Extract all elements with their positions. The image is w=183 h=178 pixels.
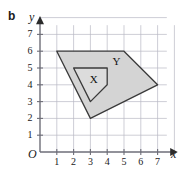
y-tick-label: 4 <box>24 80 36 90</box>
y-tick-label: 6 <box>24 46 36 56</box>
x-tick-label: 1 <box>51 157 63 167</box>
x-tick-label: 4 <box>101 157 113 167</box>
y-tick-label: 7 <box>24 29 36 39</box>
shape-label-x: X <box>90 74 98 85</box>
y-tick-label: 2 <box>24 113 36 123</box>
x-tick-label: 6 <box>135 157 147 167</box>
x-tick-label: 2 <box>68 157 80 167</box>
x-tick-label: 5 <box>118 157 130 167</box>
y-tick-label: 3 <box>24 97 36 107</box>
x-tick-label: 3 <box>84 157 96 167</box>
y-axis-arrowhead <box>36 16 44 24</box>
shape-label-y: Y <box>112 56 120 67</box>
x-tick-label: 7 <box>152 157 164 167</box>
x-axis-arrowhead <box>170 148 178 156</box>
y-tick-label: 5 <box>24 63 36 73</box>
y-tick-label: 1 <box>24 130 36 140</box>
